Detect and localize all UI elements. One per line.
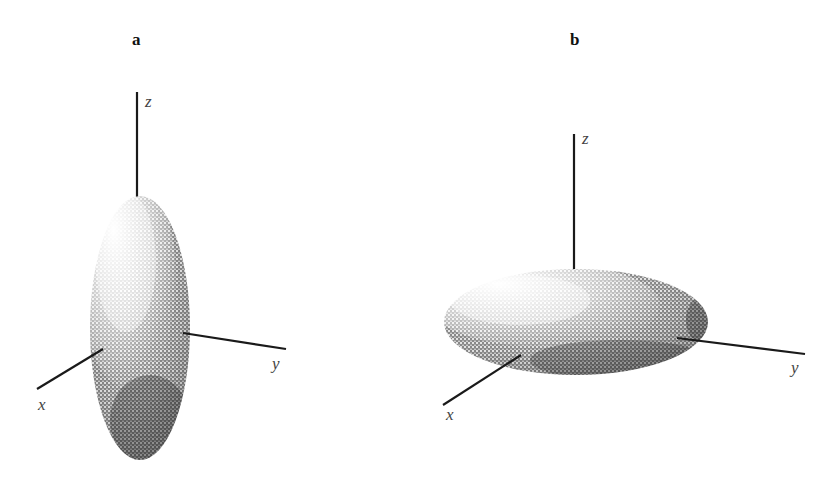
panel-label-b: b xyxy=(570,30,579,49)
x-axis-label-b: x xyxy=(445,405,454,424)
prolate-spheroid xyxy=(80,168,192,465)
panel-b: b z y x xyxy=(430,30,805,424)
x-axis-label-a: x xyxy=(37,395,46,414)
y-axis-b xyxy=(677,338,805,354)
z-axis-label-a: z xyxy=(144,92,152,111)
oblate-spheroid xyxy=(430,263,714,380)
figure-canvas: a z y x b z xyxy=(0,0,835,481)
panel-label-a: a xyxy=(132,30,141,49)
x-axis-b xyxy=(443,355,521,405)
panel-a: a z y x xyxy=(37,30,286,465)
y-axis-label-b: y xyxy=(789,358,799,377)
z-axis-label-b: z xyxy=(581,129,589,148)
y-axis-label-a: y xyxy=(270,354,280,373)
y-axis-a xyxy=(183,333,286,349)
